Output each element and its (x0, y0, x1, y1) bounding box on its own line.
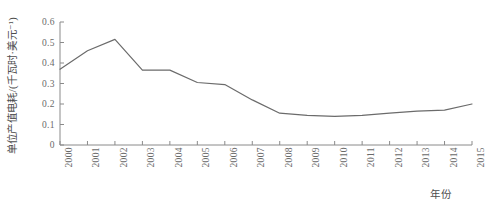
x-tick-label: 2013 (421, 147, 431, 168)
data-series-line (60, 39, 472, 116)
x-tick-label: 2006 (229, 147, 239, 168)
axis-lines (60, 22, 472, 145)
y-tick-label: 0 (50, 140, 55, 150)
x-tick-label: 2015 (476, 147, 486, 168)
y-tick-label: 0.4 (42, 58, 55, 68)
y-tick-label: 0.2 (42, 99, 55, 109)
plot-area (60, 22, 472, 145)
y-tick-label: 0.6 (42, 17, 55, 27)
x-tick-label: 2012 (394, 147, 404, 168)
x-tick-label: 2007 (256, 147, 266, 168)
line-chart-svg (60, 22, 472, 145)
y-tick-label: 0.5 (42, 38, 55, 48)
x-tick-label: 2008 (284, 147, 294, 168)
y-axis-tick-marks (60, 22, 64, 145)
x-tick-label: 2003 (146, 147, 156, 168)
x-tick-label: 2000 (64, 147, 74, 168)
x-axis-tick-labels: 2000200120022003200420052006200720082009… (60, 147, 472, 197)
chart-figure: 单位产值电耗/(千瓦时·美元⁻¹) 00.10.20.30.40.50.6 20… (0, 0, 492, 219)
x-tick-label: 2014 (449, 147, 459, 168)
x-tick-label: 2009 (311, 147, 321, 168)
x-axis-tick-marks (60, 141, 472, 145)
x-axis-title: 年份 (430, 186, 451, 201)
x-tick-label: 2001 (91, 147, 101, 168)
y-axis-tick-labels: 00.10.20.30.40.50.6 (24, 0, 58, 170)
x-tick-label: 2005 (201, 147, 211, 168)
x-tick-label: 2011 (366, 147, 376, 167)
x-tick-label: 2002 (119, 147, 129, 168)
y-axis-title: 单位产值电耗/(千瓦时·美元⁻¹) (5, 16, 20, 153)
x-tick-label: 2010 (339, 147, 349, 168)
y-tick-label: 0.1 (42, 120, 55, 130)
x-tick-label: 2004 (174, 147, 184, 168)
y-axis-title-container: 单位产值电耗/(千瓦时·美元⁻¹) (0, 0, 24, 170)
y-tick-label: 0.3 (42, 79, 55, 89)
